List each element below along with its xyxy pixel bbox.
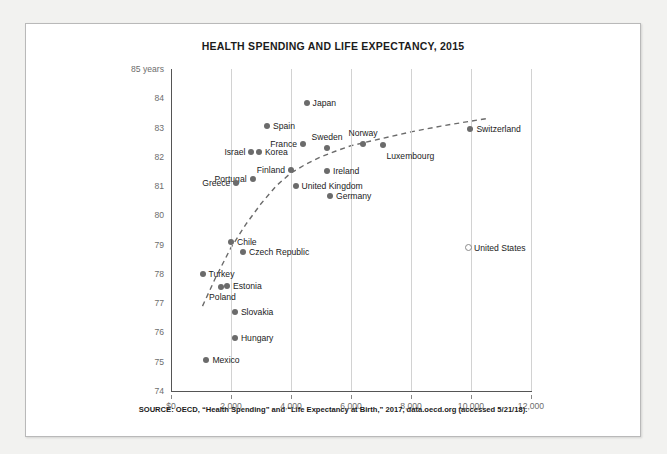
data-point[interactable] [228, 239, 234, 245]
x-axis-tick [411, 395, 412, 399]
y-axis-tick-label: 74 [154, 386, 164, 396]
x-axis-tick [231, 395, 232, 399]
y-axis-tick-label: 81 [154, 181, 164, 191]
data-point[interactable] [380, 142, 386, 148]
data-point-label: Luxembourg [387, 151, 435, 161]
data-point[interactable] [465, 244, 472, 251]
x-axis-tick [291, 395, 292, 399]
y-axis-tick-label: 76 [154, 327, 164, 337]
gridline-x [231, 69, 232, 391]
y-axis-tick-label: 83 [154, 123, 164, 133]
data-point-label: Estonia [233, 281, 262, 291]
data-point-label: Czech Republic [249, 247, 309, 257]
data-point[interactable] [360, 141, 366, 147]
data-point-label: Greece [202, 178, 230, 188]
data-point[interactable] [300, 141, 306, 147]
y-axis-tick-label: 84 [154, 93, 164, 103]
data-point-label: Spain [273, 121, 295, 131]
data-point-label: Ireland [333, 166, 359, 176]
gridline-x [411, 69, 412, 391]
data-point-label: United Kingdom [302, 181, 363, 191]
gridline-x [531, 69, 532, 391]
data-point-label: Germany [336, 191, 371, 201]
data-point[interactable] [232, 309, 238, 315]
data-point-label: Turkey [209, 269, 235, 279]
chart-card: HEALTH SPENDING AND LIFE EXPECTANCY, 201… [25, 23, 641, 437]
data-point-label: Norway [348, 128, 377, 138]
x-axis-line [171, 391, 532, 392]
gridline-x [291, 69, 292, 391]
data-point-label: Japan [313, 98, 336, 108]
y-axis-tick-label: 78 [154, 269, 164, 279]
data-point-label: Hungary [241, 333, 273, 343]
data-point[interactable] [250, 176, 256, 182]
data-point-label: Poland [209, 292, 236, 302]
data-point-label: Finland [257, 165, 285, 175]
x-axis-tick [471, 395, 472, 399]
data-point-label: Israel [224, 147, 245, 157]
data-point[interactable] [304, 100, 310, 106]
data-point[interactable] [288, 167, 294, 173]
data-point-label: Slovakia [241, 307, 273, 317]
data-point[interactable] [293, 183, 299, 189]
data-point[interactable] [218, 284, 224, 290]
x-axis-tick [531, 395, 532, 399]
y-axis-tick-label: 77 [154, 298, 164, 308]
y-axis-tick-label: 75 [154, 357, 164, 367]
data-point-label: Mexico [212, 355, 239, 365]
plot-area: $02,0004,0006,0008,00010,00012,00085 yea… [171, 69, 531, 391]
gridline-x [471, 69, 472, 391]
data-point-label: United States [474, 243, 526, 253]
data-point[interactable] [240, 249, 246, 255]
y-axis-tick-label: 79 [154, 240, 164, 250]
data-point[interactable] [200, 271, 206, 277]
y-axis-tick-label: 85 years [131, 64, 164, 74]
data-point[interactable] [224, 283, 230, 289]
data-point-label: Korea [265, 147, 288, 157]
data-point-label: Sweden [311, 132, 342, 142]
chart-title: HEALTH SPENDING AND LIFE EXPECTANCY, 201… [26, 40, 640, 52]
source-note: SOURCE: OECD, “Health Spending” and “Lif… [26, 405, 640, 414]
data-point-label: Chile [237, 237, 257, 247]
gridline-x [351, 69, 352, 391]
y-axis-tick-label: 82 [154, 152, 164, 162]
x-axis-tick [351, 395, 352, 399]
data-point-label: Switzerland [476, 124, 520, 134]
y-axis-tick-label: 80 [154, 210, 164, 220]
x-axis-tick [171, 395, 172, 399]
data-point[interactable] [324, 145, 330, 151]
